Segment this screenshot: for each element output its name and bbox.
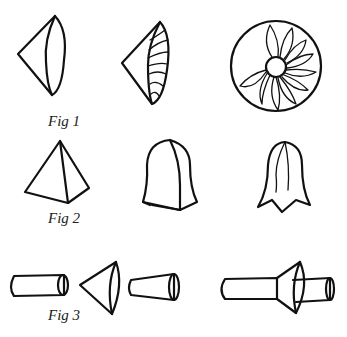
fig3-assembled bbox=[222, 262, 335, 313]
fig2-pyramid bbox=[25, 141, 89, 203]
fig1-caption: Fig 1 bbox=[48, 113, 80, 130]
fig3-cone bbox=[80, 262, 119, 314]
fig1-cone bbox=[18, 16, 65, 95]
fig3-cylinder bbox=[11, 275, 68, 296]
fig2-caption: Fig 2 bbox=[48, 210, 80, 227]
fig1-cone-petals bbox=[122, 22, 168, 104]
fig2-bell-blank bbox=[143, 140, 197, 210]
fig1-flower-disc bbox=[231, 21, 321, 111]
fig2-bell-cut bbox=[258, 142, 310, 212]
fig3-tapered-tube bbox=[129, 274, 179, 300]
fig3-caption: Fig 3 bbox=[48, 307, 80, 324]
illustration bbox=[0, 0, 347, 337]
